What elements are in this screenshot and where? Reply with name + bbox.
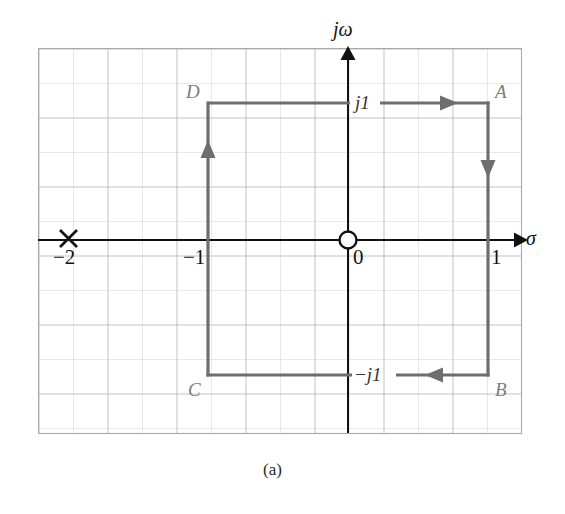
imaginary-axis-label: jω bbox=[333, 19, 353, 39]
figure-container: jω σ −2 −1 0 1 j1 −j1 D A C B (a) bbox=[0, 0, 565, 514]
tick-label-minus-one: −1 bbox=[183, 247, 205, 268]
tick-label-minus-j1: −j1 bbox=[354, 365, 382, 384]
figure-caption: (a) bbox=[263, 461, 282, 478]
contour-corner-label-c: C bbox=[188, 380, 201, 399]
tick-label-minus-two: −2 bbox=[53, 247, 75, 268]
tick-label-plus-j1: j1 bbox=[355, 93, 370, 112]
tick-label-origin: 0 bbox=[353, 247, 364, 268]
contour-corner-label-d: D bbox=[186, 82, 200, 101]
contour-corner-label-a: A bbox=[495, 82, 507, 101]
tick-label-plus-one: 1 bbox=[491, 247, 502, 268]
complex-plane-plot bbox=[0, 0, 565, 514]
real-axis-label: σ bbox=[526, 228, 536, 248]
contour-corner-label-b: B bbox=[495, 380, 507, 399]
